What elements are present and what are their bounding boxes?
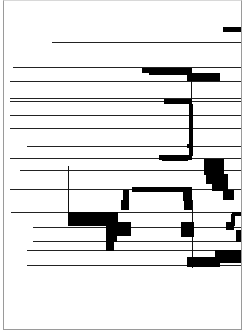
horizontal-line bbox=[33, 241, 241, 242]
horizontal-line bbox=[13, 67, 241, 68]
black-block bbox=[223, 27, 241, 32]
horizontal-line bbox=[27, 250, 241, 251]
horizontal-line bbox=[11, 212, 241, 213]
black-block bbox=[164, 99, 192, 104]
horizontal-line bbox=[10, 128, 241, 129]
horizontal-line bbox=[10, 98, 241, 99]
black-block bbox=[189, 104, 193, 156]
black-block bbox=[236, 230, 241, 242]
diagram-canvas bbox=[0, 0, 249, 331]
black-block bbox=[187, 73, 220, 81]
black-block bbox=[204, 159, 224, 175]
black-block bbox=[223, 190, 234, 200]
horizontal-line bbox=[10, 101, 241, 102]
black-block bbox=[187, 144, 192, 148]
horizontal-line bbox=[10, 81, 241, 82]
black-block bbox=[226, 222, 234, 230]
horizontal-line bbox=[33, 227, 241, 228]
horizontal-line bbox=[10, 115, 241, 116]
horizontal-line bbox=[27, 146, 241, 147]
black-block bbox=[184, 200, 192, 210]
black-block bbox=[162, 159, 188, 161]
black-block bbox=[106, 241, 114, 251]
black-block bbox=[121, 200, 129, 210]
vertical-line bbox=[68, 166, 69, 212]
black-block bbox=[187, 257, 220, 267]
black-block bbox=[181, 222, 194, 237]
black-block bbox=[149, 72, 189, 75]
black-block bbox=[183, 187, 192, 201]
horizontal-line bbox=[52, 42, 241, 43]
